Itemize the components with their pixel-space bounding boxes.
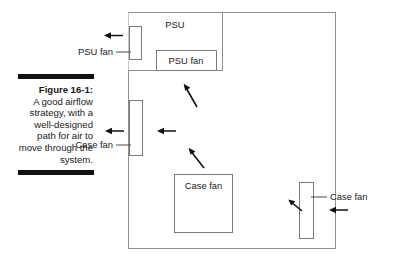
case-fan-left-label: Case fan [75, 139, 113, 150]
figure-container: Figure 16-1: A good airflow strategy, wi… [0, 0, 396, 264]
psu-fan-exhaust-arrow [104, 32, 123, 39]
case-fan-left-box [130, 101, 143, 156]
psu-fan-inner-label: PSU fan [169, 55, 204, 66]
psu-fan-left-label: PSU fan [78, 46, 113, 57]
case-fan-left-exhaust-arrow [105, 128, 124, 135]
psu-fan-wall-box [130, 27, 142, 60]
airflow-diagram: PSU PSU fan PSU fan Case fan [0, 0, 396, 264]
case-fan-right-label: Case fan [330, 191, 368, 202]
psu-label: PSU [165, 19, 185, 30]
case-fan-center-label: Case fan [185, 180, 223, 191]
